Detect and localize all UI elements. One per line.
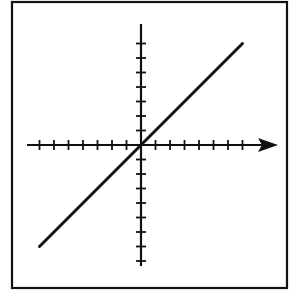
chart <box>0 0 290 294</box>
